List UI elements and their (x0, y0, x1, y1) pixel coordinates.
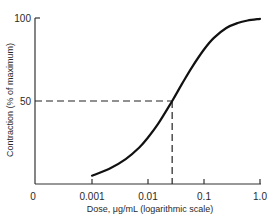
x-ticks: 0.0010.010.11.0 (79, 179, 267, 202)
y-tick-label: 50 (20, 96, 32, 107)
x-tick-label: 0.01 (138, 191, 158, 202)
x-origin-label: 0 (30, 191, 36, 202)
x-tick-label: 1.0 (253, 191, 267, 202)
x-tick-label: 0.1 (197, 191, 211, 202)
dose-response-chart: 0.0010.010.11.0 50100 0 Dose, μg/mL (log… (0, 0, 275, 217)
x-tick-label: 0.001 (79, 191, 104, 202)
dose-response-curve (92, 19, 260, 176)
y-ticks: 50100 (14, 13, 31, 107)
y-tick-label: 100 (14, 13, 31, 24)
y-axis-label: Contraction (% of maximum) (5, 43, 15, 157)
x-axis-label: Dose, μg/mL (logarithmic scale) (87, 204, 213, 214)
